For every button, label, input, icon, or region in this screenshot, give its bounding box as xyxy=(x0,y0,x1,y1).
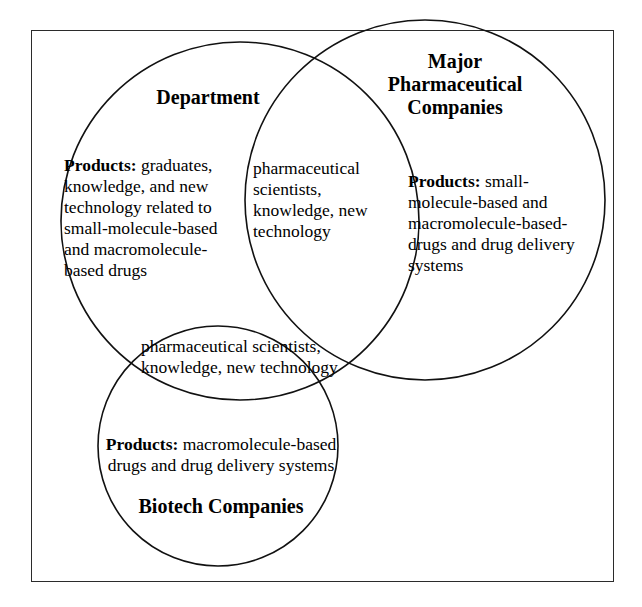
biotech-products-label: Products: xyxy=(106,434,179,454)
label-department-products: Products: graduates, knowledge, and new … xyxy=(64,155,244,281)
major-pharma-title-line-2: Pharmaceutical xyxy=(388,73,522,95)
label-major-pharmaceutical-companies-title: MajorPharmaceuticalCompanies xyxy=(355,50,555,120)
label-biotech-companies-products: Products: macromolecule-based drugs and … xyxy=(86,434,356,476)
department-products-label: Products: xyxy=(64,155,137,175)
label-intersection-department-biotech: pharmaceutical scientists, knowledge, ne… xyxy=(141,336,346,378)
venn-diagram-figure: Department Products: graduates, knowledg… xyxy=(0,0,642,607)
label-biotech-companies-title: Biotech Companies xyxy=(92,495,350,518)
major-pharma-title-line-3: Companies xyxy=(407,96,503,118)
label-major-pharmaceutical-companies-products: Products: small-molecule-based and macro… xyxy=(408,171,583,276)
label-intersection-department-major-pharma: pharmaceutical scientists, knowledge, ne… xyxy=(253,158,381,242)
major-pharma-products-label: Products: xyxy=(408,171,481,191)
label-department-title: Department xyxy=(108,86,308,109)
major-pharma-title-line-1: Major xyxy=(428,50,482,72)
